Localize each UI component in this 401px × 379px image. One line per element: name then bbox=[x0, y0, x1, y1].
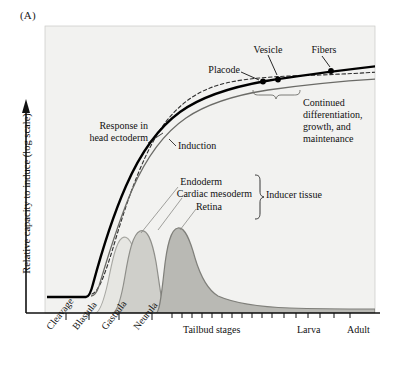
annotation-continued-differentiation: Continued differentiation, growth, and m… bbox=[303, 97, 399, 145]
point-fibers bbox=[328, 68, 334, 74]
annotation-induction: Induction bbox=[178, 140, 216, 152]
point-placode bbox=[260, 79, 266, 85]
xtick-label-tailbud-stages: Tailbud stages bbox=[183, 324, 240, 335]
xtick-label-larva: Larva bbox=[297, 324, 320, 335]
annotation-fibers: Fibers bbox=[302, 44, 346, 56]
y-axis bbox=[22, 99, 30, 313]
annotation-cardiac-mesoderm: Cardiac mesoderm bbox=[148, 188, 252, 200]
annotation-inducer-tissue: Inducer tissue bbox=[266, 189, 322, 201]
xtick-label-adult: Adult bbox=[347, 324, 370, 335]
annotation-retina: Retina bbox=[182, 201, 222, 213]
annotation-response-head-ectoderm: Response in head ectoderm bbox=[70, 120, 148, 143]
annotation-placode: Placode bbox=[188, 64, 240, 76]
annotation-endoderm: Endoderm bbox=[166, 176, 222, 188]
point-vesicle bbox=[275, 77, 281, 83]
annotation-vesicle: Vesicle bbox=[240, 44, 296, 56]
figure-panel-a: (A) Relative capacity to induce (log sca… bbox=[0, 0, 401, 379]
